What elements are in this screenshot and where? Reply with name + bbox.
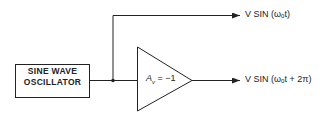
- amplifier-gain-label: Av = −1: [146, 73, 176, 85]
- output-label-inverted: V SIN (ωₒt + 2π): [245, 74, 311, 84]
- gain-value: = −1: [155, 73, 176, 83]
- oscillator-label-line1: SINE WAVE: [16, 66, 89, 77]
- oscillator-label: SINE WAVE OSCILLATOR: [16, 66, 89, 88]
- oscillator-label-line2: OSCILLATOR: [16, 77, 89, 88]
- output-label-direct: V SIN (ωₒt): [245, 9, 290, 19]
